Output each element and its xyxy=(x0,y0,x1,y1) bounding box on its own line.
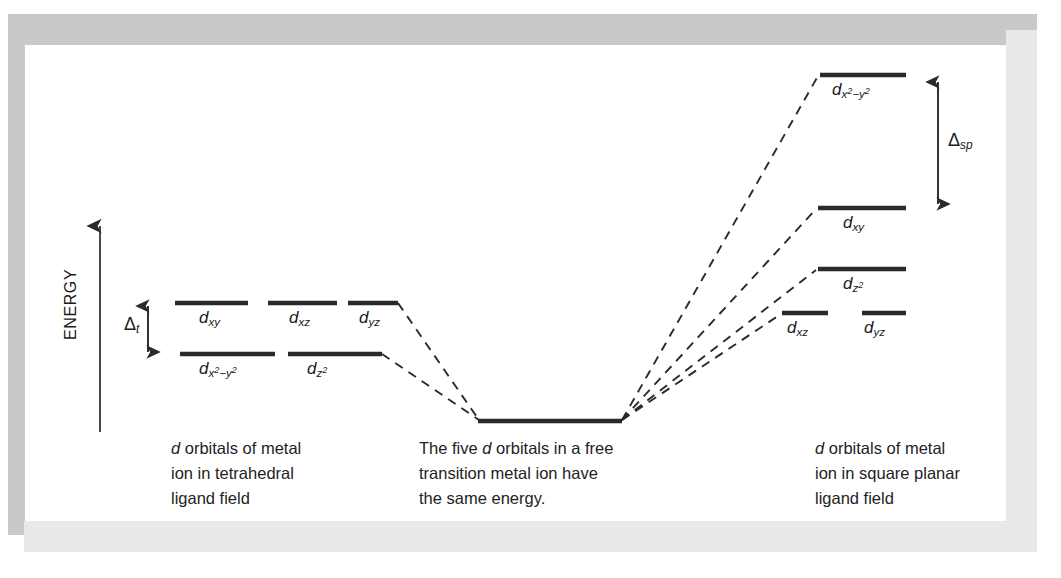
delta-t-label: Δt xyxy=(124,314,139,336)
figure-root: ENERGY Δt Δsp dxy dxz dyz dx2−y2 dz2 dx2… xyxy=(0,0,1061,578)
correlation-line-sp-dz2 xyxy=(622,270,816,420)
orbital-label-sp-dxz: dxz xyxy=(787,318,808,338)
caption-tetrahedral: d orbitals of metal ion in tetrahedral l… xyxy=(171,436,386,511)
orbital-subscript: z2 xyxy=(316,367,327,379)
orbital-subscript: yz xyxy=(368,316,380,328)
delta-sp-label: Δsp xyxy=(948,130,973,152)
caption-square-planar: d orbitals of metal ion in square planar… xyxy=(815,436,1015,511)
orbital-label-sp-dyz: dyz xyxy=(864,318,885,338)
caption-line: ion in tetrahedral xyxy=(171,461,386,486)
correlation-line-sp-dx2y2 xyxy=(622,76,818,420)
orbital-subscript: xy xyxy=(852,221,864,233)
energy-axis-label: ENERGY xyxy=(62,220,80,340)
caption-line: The five d orbitals in a free xyxy=(419,436,669,461)
orbital-subscript: xy xyxy=(208,316,220,328)
correlation-line-t-upper xyxy=(398,303,479,420)
correlation-lines-tetrahedral xyxy=(382,303,479,420)
orbital-label-t-dx2y2: dx2−y2 xyxy=(199,359,237,379)
delta-t-subscript: t xyxy=(136,322,139,336)
correlation-line-sp-dxz-dyz xyxy=(622,314,781,420)
orbital-subscript: yz xyxy=(873,326,885,338)
correlation-line-t-lower xyxy=(382,354,479,420)
delta-t-symbol: Δ xyxy=(124,314,136,334)
caption-line: d orbitals of metal xyxy=(815,436,1015,461)
orbital-subscript: z2 xyxy=(852,282,863,294)
orbital-label-t-dxy: dxy xyxy=(199,308,220,328)
caption-line: d orbitals of metal xyxy=(171,436,386,461)
orbital-subscript: x2−y2 xyxy=(208,367,236,379)
orbital-label-t-dz2: dz2 xyxy=(307,359,327,379)
caption-line-rest: orbitals of metal xyxy=(824,439,945,457)
orbital-label-sp-dxy: dxy xyxy=(843,213,864,233)
caption-line: ligand field xyxy=(171,486,386,511)
delta-sp-symbol: Δ xyxy=(948,130,960,150)
caption-line: the same energy. xyxy=(419,486,669,511)
correlation-lines-square-planar xyxy=(622,76,818,420)
orbital-label-sp-dz2: dz2 xyxy=(843,274,863,294)
caption-line: ion in square planar xyxy=(815,461,1015,486)
orbital-subscript: xz xyxy=(298,316,310,328)
orbital-label-t-dxz: dxz xyxy=(289,308,310,328)
orbital-label-sp-dx2y2: dx2−y2 xyxy=(832,80,870,100)
caption-free-ion: The five d orbitals in a free transition… xyxy=(419,436,669,511)
orbital-subscript: x2−y2 xyxy=(841,88,869,100)
orbital-label-t-dyz: dyz xyxy=(359,308,380,328)
delta-sp-subscript: sp xyxy=(960,138,973,152)
caption-line-rest: orbitals of metal xyxy=(180,439,301,457)
caption-line: ligand field xyxy=(815,486,1015,511)
caption-line: transition metal ion have xyxy=(419,461,669,486)
orbital-subscript: xz xyxy=(796,326,808,338)
